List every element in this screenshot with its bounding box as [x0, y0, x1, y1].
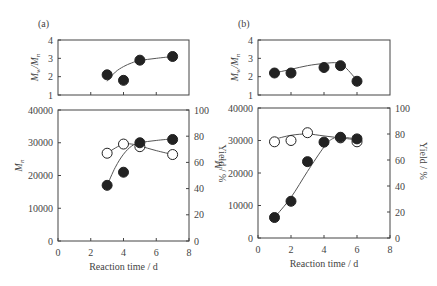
y-tick-label: 10000 [228, 200, 253, 211]
data-point-filled [286, 68, 296, 78]
y-tick-label: 1 [248, 90, 253, 101]
data-point-filled [319, 137, 329, 147]
x-tick-label: 6 [154, 247, 159, 258]
y-tick-label: 0 [48, 236, 53, 247]
y-tick-label: 3 [48, 53, 53, 64]
panel-label: (a) [38, 18, 49, 30]
y-tick-label: 2 [48, 71, 53, 82]
data-point-filled [352, 76, 362, 86]
figure: (a)1234Mw/Mn0100002000030000400000204060… [0, 0, 437, 286]
y-right-tick-label: 40 [395, 181, 405, 192]
x-tick-label: 8 [187, 247, 192, 258]
y-right-tick-label: 100 [194, 105, 209, 116]
y-tick-label: 20000 [28, 170, 53, 181]
y-tick-label: 30000 [28, 137, 53, 148]
dispersity-plot: 1234Mw/Mn [229, 35, 390, 101]
dispersity-plot: 1234Mw/Mn [29, 35, 189, 101]
data-point-open [270, 137, 280, 147]
mn-yield-plot: 01000020000300004000002040608010002468Re… [13, 105, 228, 273]
data-point-filled [119, 75, 129, 85]
y-axis-label: Mw/Mn [29, 53, 42, 82]
data-point-filled [102, 180, 112, 190]
y-axis-label: Mw/Mn [229, 53, 242, 82]
data-point-filled [336, 132, 346, 142]
panel-b: (b)1234Mw/Mn0100002000030000400000204060… [213, 18, 429, 269]
panel-a: (a)1234Mw/Mn0100002000030000400000204060… [13, 18, 228, 272]
y-tick-label: 4 [48, 35, 53, 46]
x-axis-label: Reaction time / d [89, 261, 158, 272]
y-tick-label: 10000 [28, 203, 53, 214]
x-tick-label: 0 [56, 247, 61, 258]
x-tick-label: 4 [121, 247, 126, 258]
data-point-open [168, 150, 178, 160]
mn-yield-plot: 01000020000300004000002040608010002468Re… [213, 103, 429, 270]
data-point-open [286, 136, 296, 146]
y-right-tick-label: 40 [194, 183, 204, 194]
y-right-axis-label: Yield / % [418, 142, 429, 180]
data-point-filled [336, 61, 346, 71]
data-point-filled [168, 134, 178, 144]
x-tick-label: 8 [388, 244, 393, 255]
y-right-tick-label: 60 [395, 155, 405, 166]
plot-frame [58, 40, 189, 95]
y-right-tick-label: 20 [194, 209, 204, 220]
data-point-filled [319, 63, 329, 73]
data-point-filled [135, 138, 145, 148]
data-point-filled [135, 55, 145, 65]
data-point-filled [270, 213, 280, 223]
x-tick-label: 6 [355, 244, 360, 255]
data-point-open [119, 139, 129, 149]
mn-fit-curve [275, 137, 358, 217]
y-tick-label: 40000 [28, 105, 53, 116]
y-right-tick-label: 80 [194, 131, 204, 142]
y-tick-label: 0 [248, 233, 253, 244]
data-point-filled [352, 134, 362, 144]
y-tick-label: 1 [48, 90, 53, 101]
data-point-filled [303, 157, 313, 167]
y-tick-label: 40000 [228, 103, 253, 114]
y-right-tick-label: 20 [395, 207, 405, 218]
x-tick-label: 4 [322, 244, 327, 255]
y-right-tick-label: 0 [395, 233, 400, 244]
data-point-filled [168, 52, 178, 62]
data-point-open [102, 148, 112, 158]
x-tick-label: 0 [256, 244, 261, 255]
y-right-tick-label: 0 [194, 236, 199, 247]
x-tick-label: 2 [289, 244, 294, 255]
x-axis-label: Reaction time / d [290, 258, 359, 269]
data-point-filled [119, 167, 129, 177]
data-point-filled [270, 68, 280, 78]
y-right-tick-label: 60 [194, 157, 204, 168]
panel-label: (b) [238, 18, 250, 30]
data-point-filled [102, 70, 112, 80]
y-tick-label: 20000 [228, 168, 253, 179]
y-tick-label: 4 [248, 35, 253, 46]
y-tick-label: 2 [248, 71, 253, 82]
y-axis-label: Mn [13, 159, 26, 172]
data-point-filled [286, 196, 296, 206]
x-tick-label: 2 [88, 247, 93, 258]
y-tick-label: 30000 [228, 135, 253, 146]
y-right-tick-label: 100 [395, 103, 410, 114]
y-tick-label: 3 [248, 53, 253, 64]
y-right-tick-label: 80 [395, 129, 405, 140]
data-point-open [303, 128, 313, 138]
